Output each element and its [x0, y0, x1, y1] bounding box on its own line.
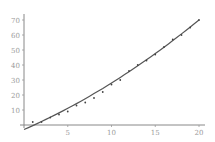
y-axis: 10203040506070 — [11, 14, 24, 128]
y-tick-label: 50 — [11, 47, 20, 55]
data-point — [102, 91, 104, 93]
data-point — [189, 27, 191, 29]
data-point — [49, 117, 51, 119]
data-point — [93, 97, 95, 99]
data-point — [76, 105, 78, 107]
data-point — [137, 64, 139, 66]
data-point — [181, 34, 183, 36]
y-tick-label: 40 — [11, 62, 20, 70]
y-tick-label: 70 — [11, 17, 20, 25]
x-tick-label: 10 — [107, 129, 116, 137]
fit-curve — [24, 20, 199, 130]
data-point — [32, 121, 34, 123]
y-ticks: 10203040506070 — [11, 17, 24, 115]
x-tick-label: 5 — [66, 129, 70, 137]
data-point — [41, 121, 43, 123]
data-point — [198, 19, 200, 21]
y-tick-label: 10 — [11, 107, 20, 115]
y-tick-label: 30 — [11, 77, 20, 85]
x-tick-label: 20 — [195, 129, 204, 137]
data-point — [67, 111, 69, 113]
chart: 10203040506070 5101520 — [0, 0, 215, 142]
data-point — [163, 46, 165, 48]
data-point — [119, 79, 121, 81]
data-point — [58, 114, 60, 116]
x-tick-label: 15 — [151, 129, 160, 137]
data-point — [146, 60, 148, 62]
data-point — [172, 39, 174, 41]
data-points — [32, 19, 200, 123]
y-tick-label: 60 — [11, 32, 20, 40]
data-point — [128, 70, 130, 72]
y-tick-label: 20 — [11, 92, 20, 100]
data-point — [84, 102, 86, 104]
x-axis: 5101520 — [20, 125, 205, 137]
data-point — [111, 84, 113, 86]
x-ticks: 5101520 — [66, 125, 204, 137]
data-point — [154, 54, 156, 56]
